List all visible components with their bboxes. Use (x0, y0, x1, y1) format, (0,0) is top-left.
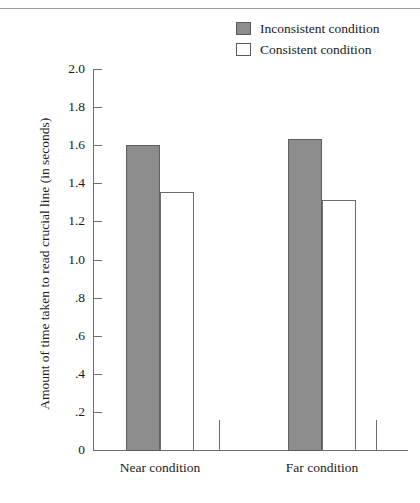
y-tick-label: .6 (51, 329, 85, 343)
y-tick-label: 1.2 (51, 214, 85, 228)
bar-near-inconsistent (126, 145, 160, 451)
x-axis-label-far: Far condition (262, 461, 382, 475)
y-tick-mark (93, 183, 102, 184)
y-tick-mark (93, 374, 102, 375)
bar-near-consistent (160, 192, 194, 451)
bar-far-consistent (322, 200, 356, 451)
bar-far-inconsistent (288, 139, 322, 451)
y-tick-label: 1.6 (51, 138, 85, 152)
x-tick-mark (376, 420, 377, 450)
bar-chart-plot: 2.0 1.8 1.6 1.4 1.2 1.0 .8 .6 .4 .2 0 Ne… (0, 0, 420, 503)
y-tick-label: 0 (51, 443, 85, 457)
y-tick-label: 1.0 (51, 253, 85, 267)
y-tick-mark (93, 412, 102, 413)
y-tick-label: .4 (51, 367, 85, 381)
y-tick-mark (93, 298, 102, 299)
y-tick-mark (93, 221, 102, 222)
y-tick-label: 1.8 (51, 100, 85, 114)
x-axis-label-near: Near condition (100, 461, 220, 475)
y-tick-label: 1.4 (51, 176, 85, 190)
y-tick-mark (93, 69, 102, 70)
y-tick-label: .8 (51, 291, 85, 305)
y-tick-label: 2.0 (51, 62, 85, 76)
x-tick-mark (219, 420, 220, 450)
y-tick-mark (93, 107, 102, 108)
y-tick-label: .2 (51, 405, 85, 419)
y-tick-mark (93, 260, 102, 261)
y-tick-mark (93, 145, 102, 146)
y-axis-title: Amount of time taken to read crucial lin… (38, 84, 52, 444)
y-tick-mark (93, 336, 102, 337)
